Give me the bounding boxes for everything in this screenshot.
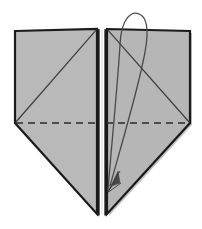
origami-diagram-container: [0, 0, 202, 229]
origami-figure: [0, 0, 202, 229]
left-paper-panel: [15, 29, 97, 214]
